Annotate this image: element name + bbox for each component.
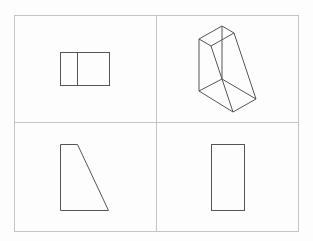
front-view: [61, 53, 110, 86]
isometric-view: [199, 26, 256, 112]
iso-edge-slant-right: [234, 33, 256, 99]
grid-frame: [15, 16, 299, 232]
side-view-trapezoid: [61, 145, 109, 211]
iso-top-face: [199, 26, 234, 46]
top-view: [212, 145, 245, 211]
top-view-rectangle: [212, 145, 245, 211]
diagram-svg: [0, 0, 313, 241]
diagram-canvas: [0, 0, 313, 241]
front-view-outline: [61, 53, 110, 86]
side-view: [61, 145, 109, 211]
